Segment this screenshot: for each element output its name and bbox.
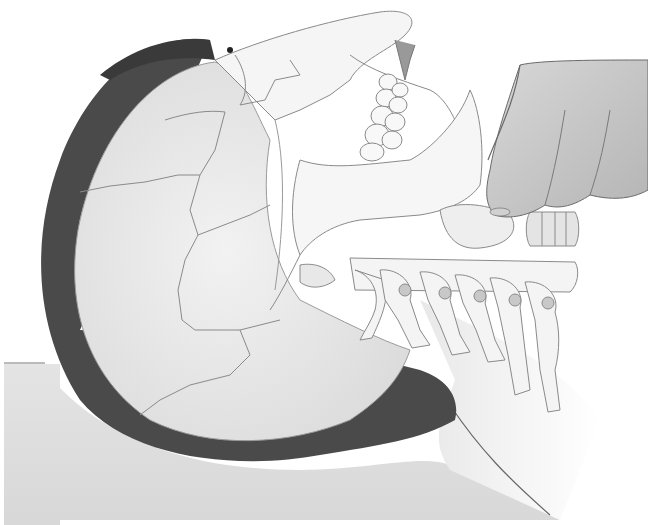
illustration-canvas (0, 0, 648, 525)
mark (227, 47, 233, 53)
teeth (360, 74, 408, 161)
medical-illustration (0, 0, 648, 525)
hand (487, 60, 648, 217)
